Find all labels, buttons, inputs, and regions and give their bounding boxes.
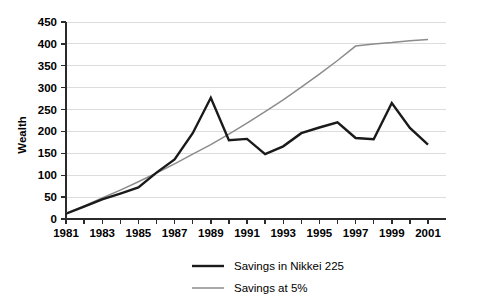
chart-container: 050100150200250300350400450 198119831985… [0,0,483,304]
x-tick-label: 1981 [53,227,79,239]
x-tick-label: 1995 [307,227,333,239]
legend-label: Savings at 5% [234,282,308,294]
y-tick-label: 0 [51,213,57,225]
y-tick-label: 300 [38,82,57,94]
y-tick-label: 450 [38,16,57,28]
x-tick-label: 1993 [270,227,296,239]
x-tick-label: 1987 [162,227,188,239]
x-tick-label: 2001 [415,227,441,239]
y-tick-label: 400 [38,38,57,50]
y-tick-label: 250 [38,104,57,116]
x-tick-label: 1999 [379,227,405,239]
legend-label: Savings in Nikkei 225 [234,260,344,272]
y-tick-label: 100 [38,169,57,181]
x-tick-label: 1989 [198,227,224,239]
y-axis-title: Wealth [16,116,28,154]
x-tick-label: 1983 [89,227,115,239]
x-tick-label: 1997 [343,227,369,239]
chart-background [0,0,483,304]
y-tick-label: 200 [38,125,57,137]
wealth-line-chart: 050100150200250300350400450 198119831985… [0,0,483,304]
y-tick-label: 350 [38,60,57,72]
x-tick-label: 1991 [234,227,260,239]
x-tick-label: 1985 [126,227,152,239]
y-tick-label: 50 [44,191,57,203]
y-tick-label: 150 [38,147,57,159]
